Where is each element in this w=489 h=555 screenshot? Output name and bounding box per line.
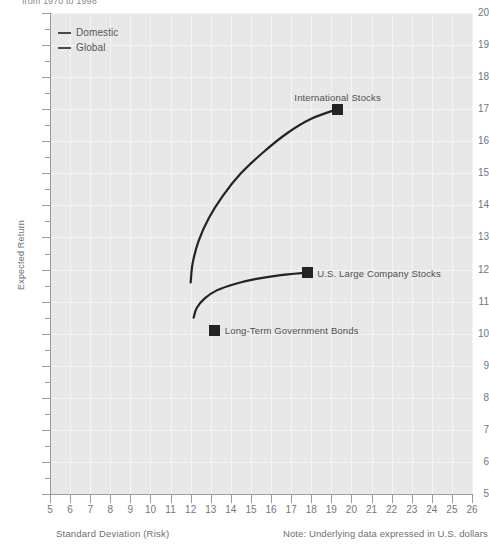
gridline-vertical xyxy=(271,13,272,494)
gridline-horizontal xyxy=(50,13,472,14)
data-point-label: Long-Term Government Bonds xyxy=(225,325,359,336)
gridline-vertical xyxy=(251,13,252,494)
legend-label: Domestic xyxy=(76,27,118,38)
y-tick-label: 16 xyxy=(453,136,489,146)
y-tick xyxy=(42,205,50,206)
y-tick-label: 8 xyxy=(453,393,489,403)
gridline-horizontal xyxy=(50,173,472,174)
y-tick-minor xyxy=(45,221,50,222)
gridline-vertical xyxy=(372,13,373,494)
y-tick-label: 19 xyxy=(453,40,489,50)
gridline-vertical xyxy=(211,13,212,494)
y-tick-label: 18 xyxy=(453,72,489,82)
gridline-vertical xyxy=(150,13,151,494)
x-tick xyxy=(472,495,473,503)
y-tick-minor xyxy=(45,93,50,94)
y-tick-minor xyxy=(45,446,50,447)
gridline-vertical xyxy=(311,13,312,494)
gridline-vertical xyxy=(432,13,433,494)
y-tick xyxy=(42,270,50,271)
x-tick xyxy=(452,495,453,503)
y-tick-minor xyxy=(45,350,50,351)
gridline-horizontal xyxy=(50,205,472,206)
x-tick xyxy=(311,495,312,503)
x-tick xyxy=(70,495,71,503)
x-tick xyxy=(150,495,151,503)
chart-legend: Domestic Global xyxy=(58,26,118,56)
y-tick xyxy=(42,334,50,335)
x-tick xyxy=(251,495,252,503)
data-marker[interactable] xyxy=(209,325,220,336)
x-tick xyxy=(90,495,91,503)
y-tick xyxy=(42,109,50,110)
gridline-vertical xyxy=(171,13,172,494)
x-tick xyxy=(211,495,212,503)
x-tick-label: 26 xyxy=(457,505,487,515)
plot-area xyxy=(50,13,472,494)
chart-root: from 1970 to 1998 5678910111213141516171… xyxy=(0,0,489,555)
gridline-horizontal xyxy=(50,462,472,463)
y-tick-minor xyxy=(45,61,50,62)
gridline-horizontal xyxy=(50,77,472,78)
y-tick-minor xyxy=(45,286,50,287)
y-tick xyxy=(42,45,50,46)
data-marker[interactable] xyxy=(302,267,313,278)
y-tick-minor xyxy=(45,478,50,479)
gridline-vertical xyxy=(392,13,393,494)
y-axis-title: Expected Return xyxy=(16,220,26,290)
y-tick xyxy=(42,77,50,78)
x-tick xyxy=(351,495,352,503)
gridline-vertical xyxy=(231,13,232,494)
x-tick xyxy=(271,495,272,503)
gridline-vertical xyxy=(331,13,332,494)
data-point-label: International Stocks xyxy=(294,92,380,103)
y-tick-label: 14 xyxy=(453,200,489,210)
legend-swatch-icon xyxy=(58,47,71,49)
x-tick xyxy=(130,495,131,503)
y-tick-label: 5 xyxy=(453,489,489,499)
gridline-vertical xyxy=(90,13,91,494)
gridline-vertical xyxy=(351,13,352,494)
gridline-horizontal xyxy=(50,398,472,399)
y-tick-minor xyxy=(45,157,50,158)
y-tick-minor xyxy=(45,29,50,30)
y-tick xyxy=(42,366,50,367)
legend-item-global[interactable]: Global xyxy=(58,41,118,54)
gridline-horizontal xyxy=(50,430,472,431)
gridline-vertical xyxy=(110,13,111,494)
y-tick xyxy=(42,173,50,174)
x-tick xyxy=(171,495,172,503)
y-axis-line xyxy=(50,13,51,495)
legend-item-domestic[interactable]: Domestic xyxy=(58,26,118,39)
y-tick-minor xyxy=(45,414,50,415)
data-marker[interactable] xyxy=(332,104,343,115)
x-tick xyxy=(231,495,232,503)
gridline-vertical xyxy=(472,13,473,494)
y-tick xyxy=(42,141,50,142)
x-axis-line xyxy=(50,494,473,495)
x-tick xyxy=(191,495,192,503)
y-tick xyxy=(42,398,50,399)
y-tick-label: 11 xyxy=(453,297,489,307)
gridline-vertical xyxy=(291,13,292,494)
x-tick xyxy=(331,495,332,503)
y-tick xyxy=(42,462,50,463)
y-tick-label: 6 xyxy=(453,457,489,467)
x-tick xyxy=(372,495,373,503)
y-tick-minor xyxy=(45,189,50,190)
y-tick-minor xyxy=(45,318,50,319)
x-tick xyxy=(392,495,393,503)
gridline-horizontal xyxy=(50,141,472,142)
gridline-horizontal xyxy=(50,237,472,238)
x-tick xyxy=(110,495,111,503)
y-tick xyxy=(42,302,50,303)
gridline-vertical xyxy=(130,13,131,494)
chart-subtitle: from 1970 to 1998 xyxy=(22,0,97,6)
gridline-vertical xyxy=(452,13,453,494)
x-tick xyxy=(432,495,433,503)
y-tick-label: 10 xyxy=(453,329,489,339)
x-tick xyxy=(291,495,292,503)
chart-note: Note: Underlying data expressed in U.S. … xyxy=(283,528,488,539)
x-axis-title: Standard Deviation (Risk) xyxy=(56,528,169,539)
y-tick-label: 17 xyxy=(453,104,489,114)
